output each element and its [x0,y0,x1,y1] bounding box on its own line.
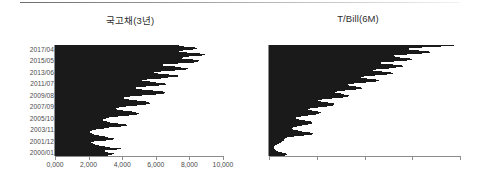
x-tick-mark-tbill6m [365,156,366,160]
plot-area-tbill6m [269,45,460,156]
figure-canvas: 국고채(3년) 2017/042015/052013/062011/072009… [0,0,484,187]
x-tick-mark-ktb3y [223,156,224,160]
x-tick-label-ktb3y: 8,000 [181,161,198,168]
y-tick-label-ktb3y: 2011/07 [30,80,54,87]
y-tick-label-ktb3y: 2007/09 [30,103,54,110]
y-tick-label-ktb3y: 2009/08 [30,91,54,98]
x-tick-mark-ktb3y [55,156,56,160]
x-axis-line-ktb3y [55,156,223,157]
y-axis-line-ktb3y [54,45,55,156]
chart-panel-ktb3y: 국고채(3년) 2017/042015/052013/062011/072009… [0,0,242,187]
y-tick-label-ktb3y: 2005/10 [30,114,54,121]
x-tick-label-ktb3y: 4,000 [114,161,131,168]
bar-ktb3y [55,45,175,46]
x-tick-mark-ktb3y [156,156,157,160]
x-tick-mark-tbill6m [317,156,318,160]
bar-series-tbill6m [269,45,460,156]
y-axis-line-tbill6m [268,45,269,156]
x-tick-mark-tbill6m [460,156,461,160]
x-tick-label-ktb3y: 6,000 [147,161,164,168]
x-tick-mark-ktb3y [189,156,190,160]
plot-area-ktb3y [55,45,223,156]
x-axis-labels-ktb3y: 0,0002,0004,0006,0008,00010,000 [55,161,223,173]
x-tick-mark-ktb3y [122,156,123,160]
y-axis-labels-tbill6m: 2015/012011/072008/012004/072001/011997/… [470,45,484,156]
y-tick-label-ktb3y: 2003/11 [30,126,54,133]
x-tick-mark-tbill6m [412,156,413,160]
x-tick-label-ktb3y: 0,000 [46,161,63,168]
x-tick-label-ktb3y: 10,000 [213,161,234,168]
y-tick-label-ktb3y: 2000/01 [30,149,54,156]
bar-series-ktb3y [55,45,223,156]
y-tick-label-ktb3y: 2001/12 [30,137,54,144]
chart-panel-tbill6m: T/Bill(6M) 2015/012011/072008/012004/072… [242,0,484,187]
x-tick-mark-tbill6m [269,156,270,160]
bar-tbill6m [269,45,454,46]
chart-title-ktb3y: 국고채(3년) [0,13,242,27]
x-tick-mark-ktb3y [89,156,90,160]
chart-title-tbill6m: T/Bill(6M) [242,13,484,24]
y-tick-label-ktb3y: 2015/05 [30,57,54,64]
x-tick-label-ktb3y: 2,000 [80,161,97,168]
y-axis-labels-ktb3y: 2017/042015/052013/062011/072009/082007/… [14,45,54,156]
y-tick-label-ktb3y: 2017/04 [30,46,54,53]
y-tick-label-ktb3y: 2013/06 [30,68,54,75]
